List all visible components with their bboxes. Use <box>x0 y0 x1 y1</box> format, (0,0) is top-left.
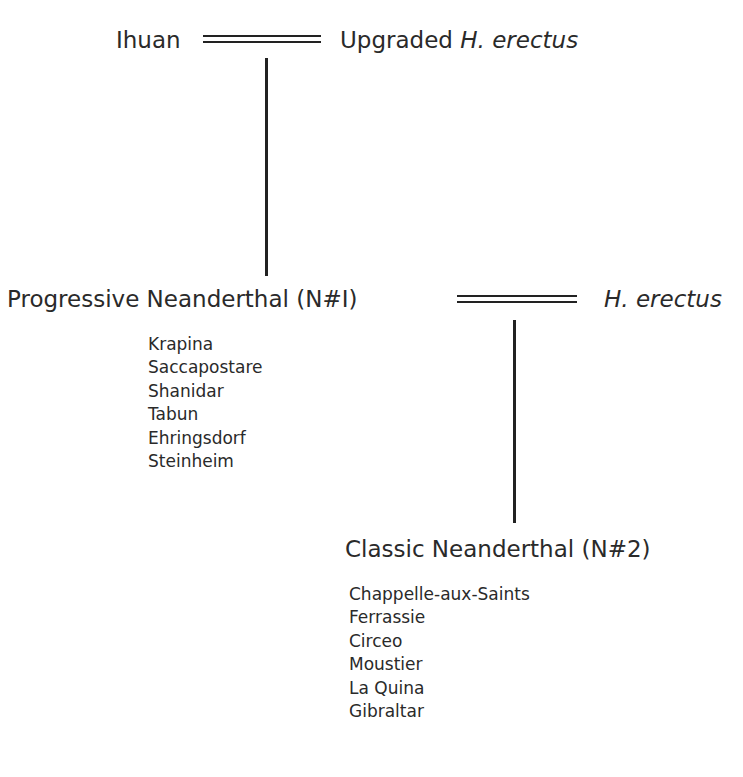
node-label-italic: H. erectus <box>604 286 722 312</box>
site-item: Circeo <box>349 630 530 653</box>
node-label-prefix: Upgraded <box>340 27 460 53</box>
site-item: Shanidar <box>148 380 263 403</box>
double-line-connector-top <box>203 35 321 43</box>
node-h-erectus: H. erectus <box>604 285 722 313</box>
double-line-connector-middle <box>457 295 577 303</box>
classic-sites-list: Chappelle-aux-Saints Ferrassie Circeo Mo… <box>349 583 530 723</box>
node-upgraded-h-erectus: Upgraded H. erectus <box>340 26 578 54</box>
vertical-connector-middle <box>513 320 516 523</box>
node-label-italic: H. erectus <box>460 27 578 53</box>
node-ihuan: Ihuan <box>116 26 181 54</box>
site-item: Saccapostare <box>148 356 263 379</box>
vertical-connector-top <box>265 58 268 276</box>
site-item: Tabun <box>148 403 263 426</box>
site-item: Steinheim <box>148 450 263 473</box>
site-item: Chappelle-aux-Saints <box>349 583 530 606</box>
site-item: Krapina <box>148 333 263 356</box>
site-item: Ferrassie <box>349 606 530 629</box>
site-item: Moustier <box>349 653 530 676</box>
progressive-sites-list: Krapina Saccapostare Shanidar Tabun Ehri… <box>148 333 263 473</box>
node-classic-neanderthal: Classic Neanderthal (N#2) <box>345 535 651 563</box>
site-item: Ehringsdorf <box>148 427 263 450</box>
node-progressive-neanderthal: Progressive Neanderthal (N#I) <box>7 285 357 313</box>
site-item: La Quina <box>349 677 530 700</box>
site-item: Gibraltar <box>349 700 530 723</box>
